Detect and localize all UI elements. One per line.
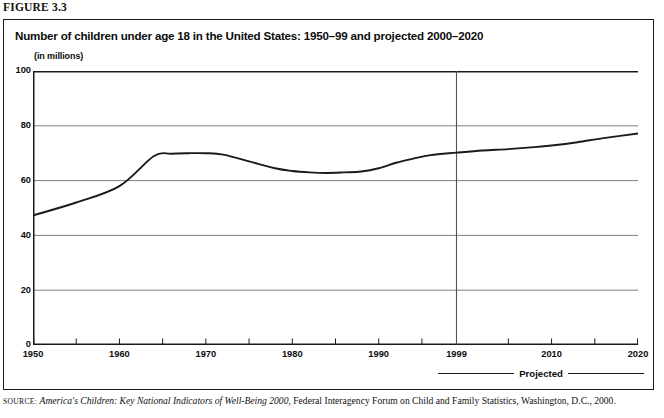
x-tick-label-1970: 1970 [196,350,217,359]
y-tick-label-100: 100 [5,66,31,75]
source-note: SOURCE: America's Children: Key National… [3,395,658,408]
source-rest: , Federal Interagency Forum on Child and… [288,395,568,406]
x-tick-label-2020: 2020 [628,350,649,359]
y-axis-tick-labels: 020406080100 [4,71,31,345]
legend-rule-right [568,373,644,374]
y-tick-label-20: 20 [5,286,31,295]
line-chart-svg [33,71,638,345]
source-line2: D.C., 2000. [571,395,616,406]
chart-title: Number of children under age 18 in the U… [15,29,483,42]
legend-label: Projected [519,368,563,379]
chart-legend: Projected [438,365,644,381]
y-axis-unit-label: (in millions) [34,51,83,61]
x-tick-label-1960: 1960 [109,350,130,359]
plot-area [33,71,638,345]
source-kicker: SOURCE: [3,397,37,406]
x-axis-tick-labels: 19501960197019801990199920102020 [33,350,638,364]
gridlines [33,72,638,290]
x-tick-label-1990: 1990 [368,350,389,359]
y-tick-label-80: 80 [5,121,31,130]
y-tick-label-40: 40 [5,231,31,240]
source-title: America's Children: Key National Indicat… [40,395,289,406]
x-tick-label-1950: 1950 [23,350,44,359]
legend-rule-left [438,373,514,374]
x-tick-label-1980: 1980 [282,350,303,359]
figure-panel: Number of children under age 18 in the U… [3,19,654,390]
figure-label: FIGURE 3.3 [3,1,67,13]
x-tick-label-1999: 1999 [446,350,467,359]
x-tick-label-2010: 2010 [541,350,562,359]
y-tick-label-60: 60 [5,176,31,185]
data-series-line [33,133,638,215]
